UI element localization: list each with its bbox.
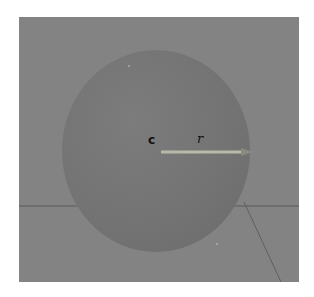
caption-cutoff: [120, 290, 210, 297]
sphere-diagram: [19, 17, 299, 282]
center-label: c: [148, 133, 155, 147]
perspective-line: [244, 202, 281, 282]
radius-label: r: [197, 131, 203, 146]
figure-panel: c r: [19, 17, 299, 282]
